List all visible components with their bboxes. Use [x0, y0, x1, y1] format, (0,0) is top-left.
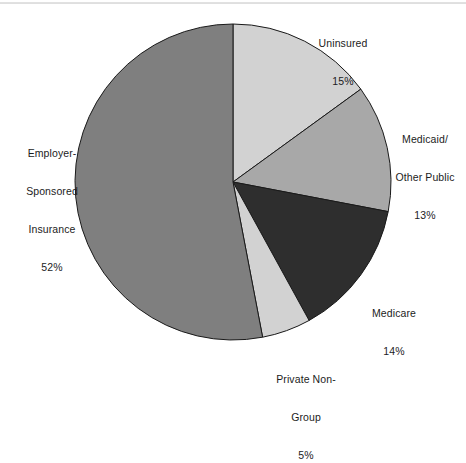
- pie-label-private-non-group-value: 5%: [260, 449, 352, 462]
- pie-label-medicare-value: 14%: [356, 345, 432, 358]
- pie-label-private-non-group: Private Non- Group 5%: [260, 348, 352, 463]
- pie-label-medicaid-value: 13%: [386, 209, 464, 222]
- pie-label-medicaid: Medicaid/ Other Public 13%: [386, 108, 464, 247]
- pie-label-uninsured-name: Uninsured: [300, 37, 386, 50]
- pie-label-employer-name-line2: Sponsored: [4, 185, 100, 198]
- pie-label-private-non-group-name-line1: Private Non-: [260, 373, 352, 386]
- pie-label-uninsured: Uninsured 15%: [300, 12, 386, 113]
- pie-label-medicaid-name-line2: Other Public: [386, 171, 464, 184]
- pie-label-employer-value: 52%: [4, 261, 100, 274]
- pie-label-medicare-name: Medicare: [356, 307, 432, 320]
- pie-label-employer-name-line1: Employer-: [4, 147, 100, 160]
- pie-label-employer-sponsored-insurance: Employer- Sponsored Insurance 52%: [4, 122, 100, 298]
- pie-label-private-non-group-name-line2: Group: [260, 411, 352, 424]
- pie-label-employer-name-line3: Insurance: [4, 223, 100, 236]
- pie-label-uninsured-value: 15%: [300, 75, 386, 88]
- pie-label-medicaid-name-line1: Medicaid/: [386, 133, 464, 146]
- pie-label-medicare: Medicare 14%: [356, 282, 432, 383]
